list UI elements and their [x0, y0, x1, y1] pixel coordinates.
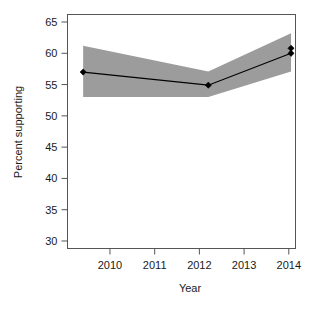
x-axis-tick-label: 2013	[232, 259, 256, 271]
y-axis-tick-label: 30	[45, 235, 57, 247]
y-axis-tick-label: 45	[45, 141, 57, 153]
chart-container: 3035404550556065 20102011201220132014 Ye…	[0, 0, 312, 310]
x-axis-tick-label: 2014	[277, 259, 301, 271]
y-axis-tick-label: 40	[45, 172, 57, 184]
y-axis-tick-label: 55	[45, 79, 57, 91]
x-axis-tick-label: 2012	[187, 259, 211, 271]
line-chart: 3035404550556065 20102011201220132014 Ye…	[0, 0, 312, 310]
y-axis-tick-label: 65	[45, 16, 57, 28]
y-axis-tick-label: 35	[45, 204, 57, 216]
y-axis-tick-label: 50	[45, 110, 57, 122]
x-axis-tick-label: 2011	[143, 259, 167, 271]
x-axis-title: Year	[179, 282, 202, 294]
y-axis-title: Percent supporting	[12, 86, 24, 178]
y-axis-tick-label: 60	[45, 47, 57, 59]
x-axis-tick-label: 2010	[98, 259, 122, 271]
